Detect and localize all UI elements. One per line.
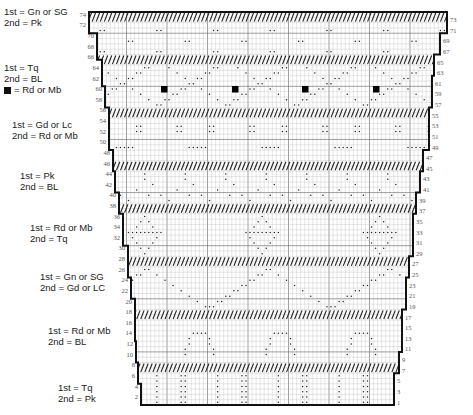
row-number-left: 44	[106, 170, 113, 177]
row-number-right: 33	[416, 229, 423, 236]
row-number-right: 43	[423, 175, 430, 182]
row-number-left: 54	[100, 117, 107, 124]
row-number-left: 36	[114, 213, 121, 220]
row-number-left: 26	[119, 266, 126, 273]
row-number-right: 11	[405, 345, 411, 352]
row-number-left: 60	[96, 85, 103, 92]
row-number-right: 27	[412, 260, 419, 267]
row-number-left: 22	[122, 287, 129, 294]
row-number-left: 16	[126, 319, 133, 326]
row-number-left: 18	[126, 308, 133, 315]
row-number-right: 65	[437, 59, 444, 66]
row-number-right: 35	[416, 218, 423, 225]
row-number-left: 14	[126, 329, 133, 336]
row-number-left: 2	[135, 393, 138, 400]
row-number-left: 46	[104, 160, 111, 167]
row-number-right: 39	[419, 197, 426, 204]
row-number-right: 29	[416, 250, 423, 257]
row-number-left: 64	[93, 64, 100, 71]
row-number-left: 50	[100, 138, 107, 145]
chart-grid	[80, 12, 460, 405]
row-number-left: 6	[132, 372, 136, 379]
row-number-left: 24	[122, 276, 129, 283]
row-number-left: 48	[104, 149, 111, 156]
row-number-right: 59	[435, 90, 442, 97]
row-number-right: 73	[450, 16, 457, 23]
row-number-right: 7	[402, 367, 406, 374]
row-number-right: 37	[419, 207, 426, 214]
row-number-left: 58	[96, 96, 103, 103]
row-number-right: 57	[435, 101, 442, 108]
row-number-left: 34	[114, 223, 121, 230]
row-number-left: 72	[80, 21, 87, 28]
row-number-left: 62	[93, 75, 100, 82]
row-number-right: 67	[443, 48, 450, 55]
row-number-left: 68	[88, 43, 95, 50]
row-number-left: 40	[110, 191, 117, 198]
row-number-left: 10	[127, 351, 134, 358]
row-number-right: 31	[416, 239, 423, 246]
row-number-right: 3	[397, 388, 400, 395]
row-number-left: 28	[119, 255, 126, 262]
filled-square-marker	[302, 86, 309, 93]
filled-square-marker	[232, 86, 239, 93]
row-number-right: 51	[432, 133, 439, 140]
row-number-right: 61	[435, 80, 442, 87]
row-number-left: 12	[127, 340, 134, 347]
row-number-right: 53	[432, 122, 439, 129]
row-number-right: 45	[426, 165, 433, 172]
row-number-right: 63	[437, 69, 444, 76]
row-number-right: 71	[450, 27, 457, 34]
row-number-left: 30	[119, 244, 126, 251]
row-number-left: 38	[110, 202, 117, 209]
row-number-left: 74	[80, 11, 87, 18]
row-number-right: 15	[405, 324, 412, 331]
row-number-right: 69	[443, 37, 450, 44]
row-number-right: 9	[402, 356, 405, 363]
row-number-right: 25	[412, 271, 419, 278]
row-number-right: 1	[397, 399, 400, 406]
filled-square-marker	[161, 86, 168, 93]
filled-square-marker	[373, 86, 380, 93]
row-number-right: 13	[405, 335, 412, 342]
row-number-left: 52	[100, 128, 107, 135]
row-number-left: 56	[100, 106, 107, 113]
row-number-left: 32	[114, 234, 121, 241]
row-number-right: 47	[426, 154, 433, 161]
knitting-chart: 7472706866646260585654525048464442403836…	[0, 0, 473, 415]
row-number-right: 5	[397, 377, 400, 384]
row-number-left: 70	[88, 32, 95, 39]
row-number-left: 20	[126, 298, 133, 305]
row-number-right: 17	[405, 314, 412, 321]
row-number-left: 42	[106, 181, 113, 188]
row-number-right: 41	[423, 186, 430, 193]
row-number-right: 21	[409, 292, 416, 299]
row-number-right: 55	[432, 112, 439, 119]
row-number-right: 49	[432, 144, 439, 151]
row-number-left: 8	[132, 361, 135, 368]
row-number-left: 66	[88, 53, 95, 60]
row-number-right: 19	[409, 303, 416, 310]
row-number-right: 23	[409, 282, 416, 289]
